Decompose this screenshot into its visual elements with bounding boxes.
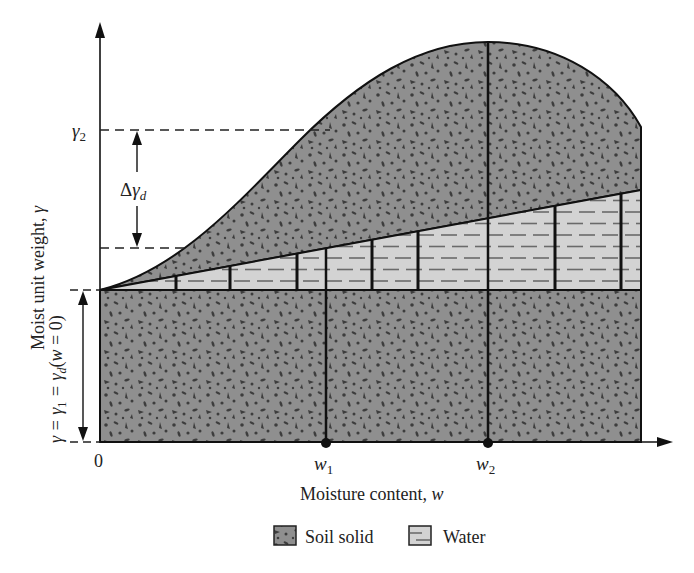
y-base-label: γ = γ1 = γd(w = 0) — [46, 315, 69, 443]
gamma1-arrow-down-icon — [78, 427, 88, 441]
gamma1-arrow-up-icon — [78, 291, 88, 305]
delta-gamma-label: Δγd — [120, 179, 147, 203]
base-soil-block — [100, 290, 641, 442]
x-axis-arrow-icon — [657, 437, 673, 447]
legend-label-water: Water — [443, 527, 486, 547]
w1-label: w1 — [314, 453, 333, 477]
y-axis-title: Moist unit weight, γ — [28, 205, 48, 350]
legend: Soil solid Water — [274, 526, 486, 547]
w1-marker-icon — [321, 438, 331, 448]
y-axis-arrow-icon — [95, 22, 105, 38]
w2-marker-icon — [483, 438, 493, 448]
soil-solid-swatch-icon — [274, 526, 296, 545]
w2-label: w2 — [476, 453, 495, 477]
water-swatch-icon — [409, 526, 431, 545]
legend-label-soil-solid: Soil solid — [305, 527, 374, 547]
compaction-diagram: γ2 Δγd 0 w1 w2 Moisture content, w Moist… — [0, 0, 694, 573]
origin-label: 0 — [94, 451, 103, 471]
legend-item-soil-solid: Soil solid — [274, 526, 374, 547]
legend-item-water: Water — [409, 526, 486, 547]
gamma2-label: γ2 — [72, 120, 86, 144]
delta-arrow-down-icon — [132, 233, 142, 247]
x-axis-title: Moisture content, w — [300, 484, 444, 504]
delta-arrow-up-icon — [132, 131, 142, 145]
